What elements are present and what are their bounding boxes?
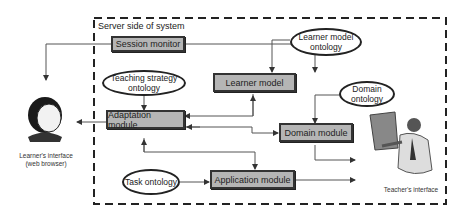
teacher-interface-label: Teacher's interface [376,186,446,194]
learner-interface-label: Learner's interface (web browser) [16,152,76,168]
task-ontology-oval: Task ontology [122,169,180,195]
session-monitor-box: Session monitor [111,36,185,52]
frame-title: Server side of system [98,21,185,31]
learner-label-line1: Learner's interface [16,152,76,160]
domain-ontology-oval: Domain ontology [339,81,395,107]
learner-model-ontology-oval: Learner model ontology [290,28,362,56]
teaching-strategy-ontology-oval: Teaching strategy ontology [102,70,186,96]
adaptation-module-box: Adaptation module [106,110,185,129]
learner-model-box: Learner model [213,73,296,92]
learner-label-line2: (web browser) [16,160,76,168]
application-module-box: Application module [210,170,295,189]
domain-module-box: Domain module [279,123,353,142]
